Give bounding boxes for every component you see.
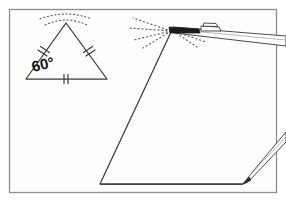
geometry-figure: 60° bbox=[0, 0, 286, 211]
figure-canvas: 60° bbox=[0, 0, 286, 211]
straightedge-knob-top bbox=[203, 23, 218, 27]
